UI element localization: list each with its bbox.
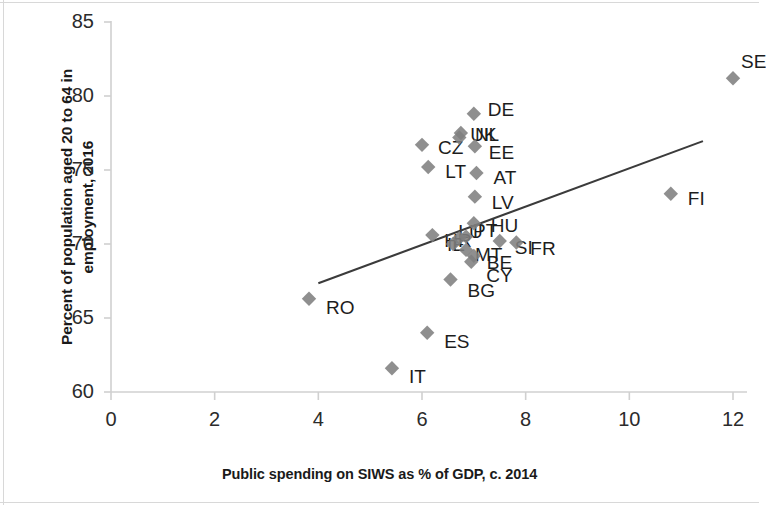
data-markers bbox=[302, 71, 740, 375]
data-point-marker bbox=[415, 138, 429, 152]
data-point-marker bbox=[420, 326, 434, 340]
data-point-marker bbox=[421, 160, 435, 174]
data-point-marker bbox=[467, 107, 481, 121]
data-point-marker bbox=[664, 186, 678, 200]
trendline bbox=[318, 141, 703, 283]
data-point-marker bbox=[385, 361, 399, 375]
data-point-marker bbox=[726, 71, 740, 85]
data-point-marker bbox=[469, 166, 483, 180]
trendline-segment bbox=[318, 141, 703, 283]
axes-group bbox=[104, 21, 747, 400]
data-point-marker bbox=[468, 189, 482, 203]
data-point-marker bbox=[493, 234, 507, 248]
data-point-marker bbox=[443, 272, 457, 286]
data-point-marker bbox=[302, 292, 316, 306]
data-point-marker bbox=[468, 139, 482, 153]
data-point-marker bbox=[509, 235, 523, 249]
